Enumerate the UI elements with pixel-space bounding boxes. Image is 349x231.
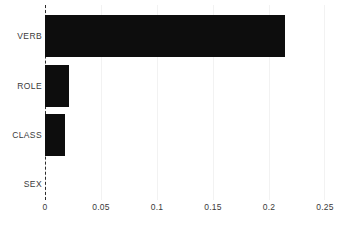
xtick-label-1: 0.05	[92, 203, 110, 212]
xtick-label-3: 0.15	[204, 203, 222, 212]
bar-row	[45, 65, 325, 107]
category-label-verb: VERB	[0, 32, 42, 41]
category-label-role: ROLE	[0, 82, 42, 91]
xtick-label-5: 0.25	[316, 203, 334, 212]
bar-row	[45, 15, 325, 57]
bar-role	[45, 65, 69, 107]
bar-class	[45, 114, 65, 156]
plot-area	[45, 5, 325, 200]
bar-chart: VERB ROLE CLASS SEX 0 0.05 0.1 0.15 0.2 …	[0, 0, 349, 231]
category-label-sex: SEX	[0, 180, 42, 189]
bar-verb	[45, 15, 285, 57]
xtick-label-4: 0.2	[263, 203, 276, 212]
bar-row	[45, 163, 325, 205]
xtick-label-2: 0.1	[151, 203, 164, 212]
category-label-class: CLASS	[0, 131, 42, 140]
xtick-label-0: 0	[42, 203, 47, 212]
bar-row	[45, 114, 325, 156]
